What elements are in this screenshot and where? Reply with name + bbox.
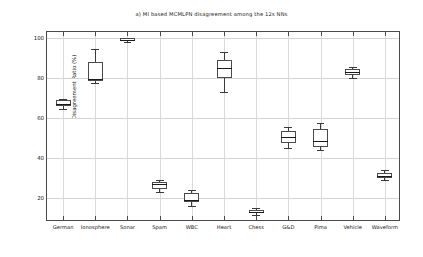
y-tick-label: 80 xyxy=(37,75,44,81)
median-line xyxy=(88,79,103,80)
boxplot-german xyxy=(56,32,71,220)
whisker-cap-lower xyxy=(220,92,228,93)
x-tick-label-wbc: WBC xyxy=(186,224,198,230)
median-line xyxy=(217,68,232,69)
whisker-cap-lower xyxy=(188,206,196,207)
whisker-cap-lower xyxy=(349,78,357,79)
y-tick-label: 20 xyxy=(37,195,44,201)
whisker-cap-lower xyxy=(124,42,132,43)
boxplot-waveform xyxy=(377,32,392,220)
y-tick-label: 100 xyxy=(34,35,44,41)
whisker-cap-upper xyxy=(317,123,325,124)
whisker-cap-lower xyxy=(381,180,389,181)
figure-canvas: a) MI based MCMLPN disagreement among th… xyxy=(0,0,423,257)
whisker-cap-upper xyxy=(381,170,389,171)
whisker-upper xyxy=(95,49,96,62)
median-line xyxy=(184,200,199,201)
whisker-cap-upper xyxy=(284,127,292,128)
x-tick-label-german: German xyxy=(53,224,74,230)
x-tick-label-vehicle: Vehicle xyxy=(343,224,362,230)
whisker-cap-upper xyxy=(349,67,357,68)
boxplot-ionosphere xyxy=(88,32,103,220)
whisker-cap-lower xyxy=(252,215,260,216)
x-tick-label-pima: Pima xyxy=(314,224,327,230)
median-line xyxy=(56,104,71,105)
x-tick-label-ionosphere: Ionosphere xyxy=(81,224,110,230)
y-tick-label: 40 xyxy=(37,155,44,161)
boxplot-spam xyxy=(152,32,167,220)
whisker-cap-upper xyxy=(188,190,196,191)
x-tick-label-chess: Chess xyxy=(248,224,264,230)
chart-title: a) MI based MCMLPN disagreement among th… xyxy=(0,11,423,17)
median-line xyxy=(377,176,392,177)
whisker-cap-lower xyxy=(156,192,164,193)
box-iqr xyxy=(313,129,328,147)
whisker-cap-upper xyxy=(156,180,164,181)
x-tick-label-spam: Spam xyxy=(152,224,167,230)
x-tick-label-waveform: Waveform xyxy=(372,224,398,230)
boxplot-chess xyxy=(249,32,264,220)
median-line xyxy=(152,184,167,185)
x-tick-label-sonar: Sonar xyxy=(120,224,135,230)
median-line xyxy=(281,137,296,138)
whisker-cap-lower xyxy=(91,83,99,84)
y-tick-label: 60 xyxy=(37,115,44,121)
median-line xyxy=(120,40,135,41)
boxplot-vehicle xyxy=(345,32,360,220)
boxplot-g-d xyxy=(281,32,296,220)
boxplot-sonar xyxy=(120,32,135,220)
x-tick-label-g-d: G&D xyxy=(282,224,294,230)
x-tick-label-heart: Heart xyxy=(217,224,231,230)
whisker-cap-lower xyxy=(284,148,292,149)
median-line xyxy=(249,212,264,213)
whisker-cap-lower xyxy=(59,109,67,110)
median-line xyxy=(313,141,328,142)
plot-area: Disagreement Ratio (%) 20406080100 Germa… xyxy=(46,31,400,221)
boxplot-heart xyxy=(217,32,232,220)
boxplot-wbc xyxy=(184,32,199,220)
box-iqr xyxy=(217,60,232,78)
median-line xyxy=(345,72,360,73)
whisker-cap-upper xyxy=(91,49,99,50)
y-axis-label: Disagreement Ratio (%) xyxy=(71,27,77,147)
whisker-cap-upper xyxy=(220,52,228,53)
whisker-lower xyxy=(224,78,225,92)
whisker-upper xyxy=(224,52,225,60)
whisker-cap-lower xyxy=(317,150,325,151)
boxplot-pima xyxy=(313,32,328,220)
